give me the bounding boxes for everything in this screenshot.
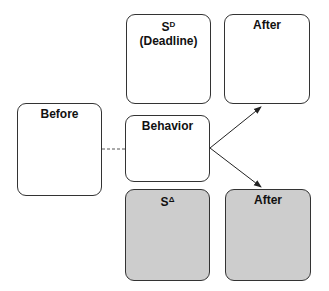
arrow-to-after-bottom: [210, 148, 261, 187]
arrow-to-after-top: [210, 107, 261, 148]
connector-lines: [0, 0, 329, 291]
